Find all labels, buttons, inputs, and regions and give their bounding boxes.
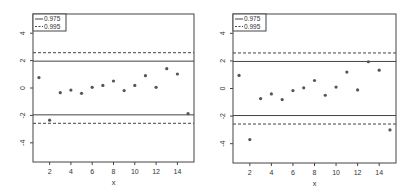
x-tick-label: 2 (248, 169, 252, 176)
chart-canvas: 2468101214-4-2024x0.9750.995 2468101214-… (0, 0, 412, 196)
y-tick-label: 0 (219, 86, 226, 90)
y-tick-label: 4 (219, 31, 226, 35)
x-tick-label: 12 (152, 168, 160, 175)
data-point (270, 92, 273, 95)
data-point (237, 74, 240, 77)
figure: 2468101214-4-2024x0.9750.995 2468101214-… (0, 0, 412, 196)
data-point (291, 89, 294, 92)
data-point (302, 86, 305, 89)
data-point (80, 92, 83, 95)
data-point (186, 112, 189, 115)
legend: 0.9750.995 (233, 14, 266, 31)
x-tick-label: 6 (291, 169, 295, 176)
y-tick-label: -2 (219, 113, 226, 119)
x-tick-label: 4 (69, 168, 73, 175)
y-tick-label: 0 (19, 86, 26, 90)
data-point (133, 84, 136, 87)
data-point (356, 88, 359, 91)
data-point (334, 86, 337, 89)
data-point (367, 60, 370, 63)
data-point (165, 67, 168, 70)
data-point (281, 98, 284, 101)
data-point (48, 119, 51, 122)
data-point (123, 89, 126, 92)
data-point (154, 86, 157, 89)
data-point (378, 69, 381, 72)
y-tick-label: 2 (19, 59, 26, 63)
data-point (176, 72, 179, 75)
data-point (37, 76, 40, 79)
data-point (248, 138, 251, 141)
data-point (388, 128, 391, 131)
data-point (324, 94, 327, 97)
x-tick-label: 6 (90, 168, 94, 175)
data-point (69, 88, 72, 91)
plot-frame (233, 14, 396, 163)
x-tick-label: 2 (48, 168, 52, 175)
y-tick-label: -4 (219, 140, 226, 146)
data-point (259, 97, 262, 100)
data-point (345, 70, 348, 73)
x-tick-label: 12 (354, 169, 362, 176)
x-tick-label: 10 (332, 169, 340, 176)
x-tick-label: 14 (375, 169, 383, 176)
y-tick-label: 4 (19, 31, 26, 35)
legend-label: 0.975 (244, 15, 261, 22)
data-point (91, 86, 94, 89)
data-point (144, 74, 147, 77)
data-point (313, 79, 316, 82)
legend-label: 0.975 (44, 15, 61, 22)
legend-label: 0.995 (244, 23, 261, 30)
x-tick-label: 14 (173, 168, 181, 175)
scatter-plot-right: 2468101214-4-2024x0.9750.995 (219, 14, 396, 188)
x-axis-label: x (313, 179, 317, 188)
scatter-plot-left: 2468101214-4-2024x0.9750.995 (19, 14, 194, 187)
plot-frame (33, 14, 194, 162)
data-point (112, 79, 115, 82)
data-point (59, 91, 62, 94)
y-tick-label: 2 (219, 59, 226, 63)
x-tick-label: 8 (313, 169, 317, 176)
y-tick-label: -2 (19, 112, 26, 118)
legend: 0.9750.995 (33, 14, 66, 31)
x-axis-label: x (112, 178, 116, 187)
y-tick-label: -4 (19, 140, 26, 146)
x-tick-label: 10 (131, 168, 139, 175)
x-tick-label: 4 (269, 169, 273, 176)
legend-label: 0.995 (44, 23, 61, 30)
data-point (101, 84, 104, 87)
x-tick-label: 8 (112, 168, 116, 175)
